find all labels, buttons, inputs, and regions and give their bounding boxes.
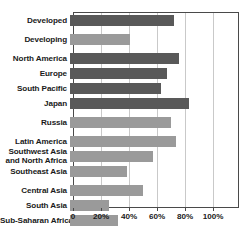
x-tick-0: [73, 208, 74, 211]
bar: [70, 117, 171, 128]
bar-track: [70, 96, 252, 111]
x-tick-label: 0: [71, 212, 76, 221]
bar-track: [70, 81, 252, 96]
x-tick-label: 60%: [149, 212, 165, 221]
bar: [70, 15, 174, 26]
bar: [70, 83, 161, 94]
bar-row: North America: [0, 51, 252, 66]
bar: [70, 185, 143, 196]
x-tick-20: [101, 208, 102, 211]
bar-rows: DevelopedDevelopingNorth AmericaEuropeSo…: [0, 12, 252, 208]
bar-row: Developing: [0, 32, 252, 47]
bar-track: [70, 115, 252, 130]
bar-label: Japan: [0, 99, 70, 108]
bar: [70, 53, 179, 64]
bar: [70, 151, 153, 162]
bar-track: [70, 164, 252, 179]
bar-track: [70, 51, 252, 66]
bar: [70, 34, 130, 45]
bar-label: Southeast Asia: [0, 167, 70, 176]
bar-label: Developed: [0, 16, 70, 25]
x-tick-label: 100%: [203, 212, 224, 221]
bar: [70, 136, 176, 147]
bar-row: Russia: [0, 115, 252, 130]
bar-label: Southwest Asiaand North Africa: [0, 147, 70, 165]
bar-row: Southwest Asiaand North Africa: [0, 149, 252, 164]
bar-label: Developing: [0, 35, 70, 44]
bar-label: North America: [0, 54, 70, 63]
x-tick-100: [213, 208, 214, 211]
bar-row: Japan: [0, 96, 252, 111]
bar-chart: DevelopedDevelopingNorth AmericaEuropeSo…: [0, 0, 252, 230]
bar-label: South Pacific: [0, 84, 70, 93]
x-tick-label: 40%: [121, 212, 137, 221]
bar: [70, 166, 127, 177]
bar-label: Central Asia: [0, 186, 70, 195]
bar-track: [70, 13, 252, 28]
x-axis: 020%40%60%80%100%: [0, 208, 252, 230]
bar-row: Developed: [0, 13, 252, 28]
x-tick-80: [185, 208, 186, 211]
bar-track: [70, 66, 252, 81]
bar-label: Latin America: [0, 137, 70, 146]
x-tick-40: [129, 208, 130, 211]
bar-track: [70, 32, 252, 47]
bar-row: South Pacific: [0, 81, 252, 96]
bar-label: Europe: [0, 69, 70, 78]
x-tick-60: [157, 208, 158, 211]
bar-row: Europe: [0, 66, 252, 81]
bar-track: [70, 149, 252, 164]
bar-label: Russia: [0, 118, 70, 127]
bar-row: Central Asia: [0, 183, 252, 198]
bar-track: [70, 183, 252, 198]
bar: [70, 98, 189, 109]
bar-track: [70, 134, 252, 149]
bar-row: Southeast Asia: [0, 164, 252, 179]
x-tick-label: 20%: [93, 212, 109, 221]
x-tick-label: 80%: [177, 212, 193, 221]
bar: [70, 68, 167, 79]
